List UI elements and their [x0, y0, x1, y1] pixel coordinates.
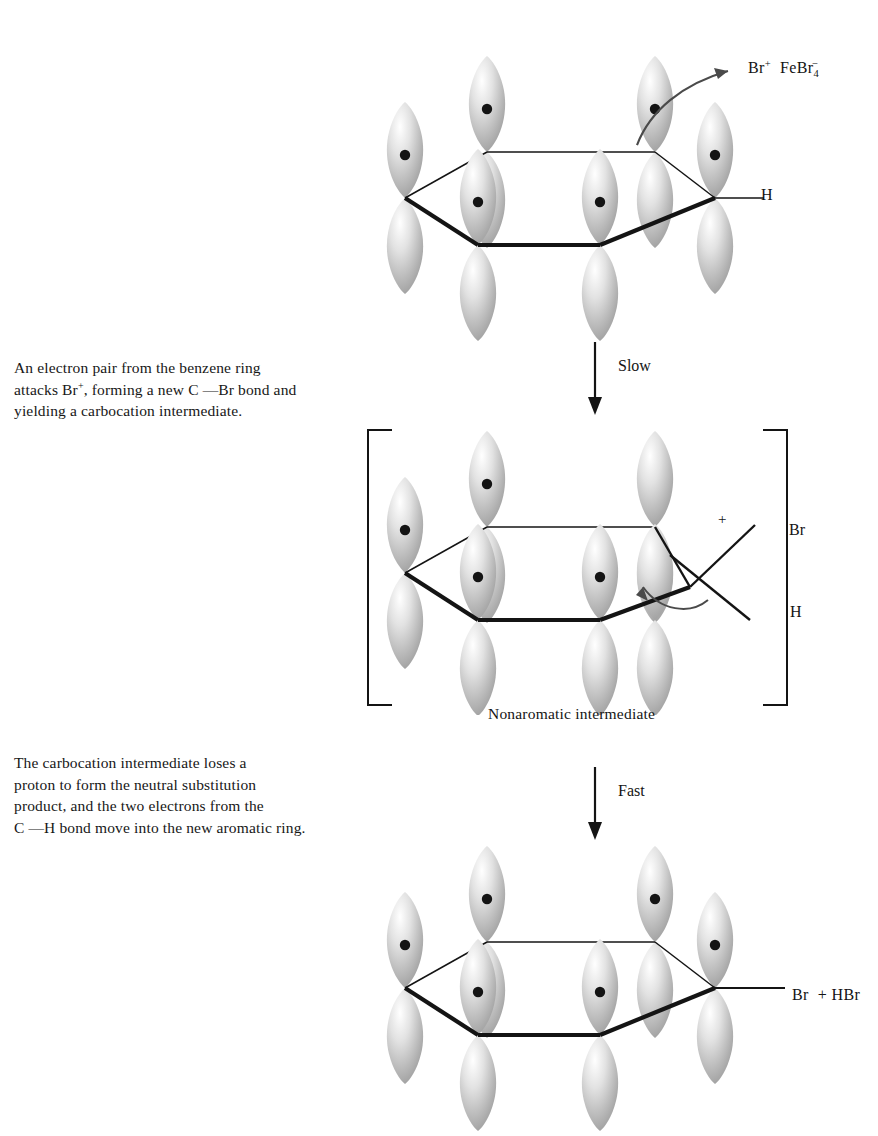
electron-dot [595, 572, 605, 582]
caption2-line4: C —H bond move into the new aromatic rin… [14, 817, 306, 839]
caption2-l4-dash: — [29, 819, 45, 836]
electron-dot [595, 197, 605, 207]
caption-step-one: An electron pair from the benzene ring a… [14, 357, 296, 422]
caption1-l2-dash: — [203, 381, 219, 398]
p-orbital-sp3-carbon [637, 524, 673, 715]
reagent-febr4-charge: − [812, 58, 818, 69]
electron-dot [400, 525, 410, 535]
label-product-and-hbr: Br + HBr [792, 986, 860, 1004]
reagent-febr4: FeBr [780, 59, 814, 76]
electron-dot [650, 894, 660, 904]
electron-dot [482, 894, 492, 904]
product-plus: + [818, 986, 827, 1003]
product-br: Br [792, 986, 809, 1003]
slow-arrow-svg [575, 340, 615, 418]
electron-dot [482, 479, 492, 489]
reagent-br-charge: + [765, 58, 771, 69]
caption2-l4-before: C [14, 819, 29, 836]
reaction-arrow-fast [575, 765, 615, 843]
reagent-br: Br [748, 59, 765, 76]
electron-dot [400, 940, 410, 950]
bracket-right [763, 430, 787, 705]
benzene-orbital-svg [360, 55, 780, 345]
product-orbital-svg [360, 845, 800, 1135]
intermediate-orbital-svg [360, 415, 800, 715]
caption1-line3: yielding a carbocation intermediate. [14, 400, 296, 422]
structure-bromobenzene-product [360, 845, 800, 1135]
caption1-l2-before: attacks Br [14, 381, 78, 398]
label-reagent-bromine-cation: Br+ FeBr4− [748, 59, 819, 77]
figure-canvas: Br+ FeBr4− H Slow [0, 0, 878, 1136]
label-fast: Fast [618, 782, 645, 800]
structure-arenium-intermediate [360, 415, 800, 715]
reagent-febr4-sub: 4 [814, 68, 820, 79]
electron-dot [710, 150, 720, 160]
label-top-hydrogen: H [761, 186, 773, 204]
caption2-line2: proton to form the neutral substitution [14, 774, 306, 796]
bond-c-h [670, 555, 750, 620]
product-hbr: HBr [831, 986, 860, 1003]
electron-dot [482, 104, 492, 114]
intermediate-brackets [368, 430, 787, 705]
electron-dot [473, 987, 483, 997]
electron-dot [595, 987, 605, 997]
fast-arrow-svg [575, 765, 615, 843]
caption1-line1: An electron pair from the benzene ring [14, 357, 296, 379]
label-carbocation-charge: + [718, 511, 726, 528]
caption-step-two: The carbocation intermediate loses a pro… [14, 752, 306, 838]
caption1-l2-after: Br bond and [218, 381, 296, 398]
label-mid-bromine: Br [789, 521, 805, 539]
electron-dot [473, 572, 483, 582]
electron-dot [650, 104, 660, 114]
caption1-l2-middle: , forming a new C [84, 381, 203, 398]
bracket-left [368, 430, 392, 705]
label-slow: Slow [618, 357, 651, 375]
structure-benzene-reactant [360, 55, 780, 345]
caption2-line1: The carbocation intermediate loses a [14, 752, 306, 774]
label-nonaromatic-intermediate: Nonaromatic intermediate [488, 705, 655, 723]
label-mid-hydrogen: H [790, 603, 802, 621]
electron-dot [473, 197, 483, 207]
reaction-arrow-slow [575, 340, 615, 418]
caption1-line2: attacks Br+, forming a new C —Br bond an… [14, 379, 296, 401]
caption2-line3: product, and the two electrons from the [14, 795, 306, 817]
electron-dot [400, 150, 410, 160]
caption2-l4-after: H bond move into the new aromatic ring. [44, 819, 306, 836]
electron-dot [710, 940, 720, 950]
